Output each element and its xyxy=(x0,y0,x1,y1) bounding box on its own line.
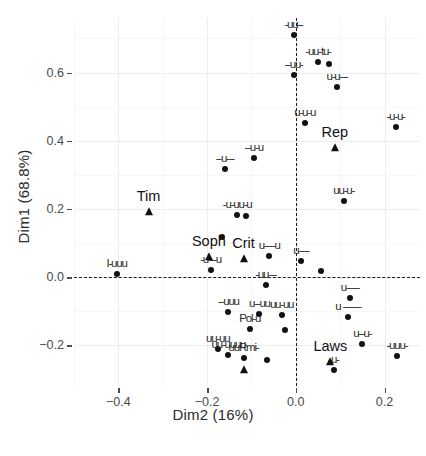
point-label: --u--- xyxy=(216,152,234,164)
point-label: u-u-u xyxy=(294,106,315,118)
point-label: --uuu xyxy=(218,295,239,307)
point-marker[interactable] xyxy=(247,326,253,332)
y-tick-mark xyxy=(67,345,72,347)
x-tick-label: −0.4 xyxy=(106,395,131,409)
point-label-named: Tim xyxy=(137,188,161,204)
y-gridline-major xyxy=(74,73,420,74)
point-marker[interactable] xyxy=(208,267,214,273)
y-tick-label: 0.4 xyxy=(47,134,64,148)
chart-root: Dim1 (68.8%) Dim2 (16%) 0.60.40.20.0−0.2… xyxy=(0,0,426,456)
y-gridline-minor xyxy=(74,175,420,176)
point-marker[interactable] xyxy=(334,84,340,90)
point-marker[interactable] xyxy=(345,314,351,320)
point-label: u--u- xyxy=(353,327,371,339)
point-label: u ------- xyxy=(335,300,361,312)
point-marker[interactable] xyxy=(359,341,365,347)
point-label: -uu--- xyxy=(255,268,276,280)
y-tick-mark xyxy=(67,73,72,75)
point-label: -u-uu-u xyxy=(223,198,252,210)
point-marker[interactable] xyxy=(394,353,400,359)
point-label: I-uuu xyxy=(106,257,126,269)
y-tick-label: 0.0 xyxy=(47,270,64,284)
y-tick-group: 0.60.40.20.0−0.2 xyxy=(0,18,74,386)
triangle-marker[interactable] xyxy=(326,357,334,365)
point-marker[interactable] xyxy=(331,367,337,373)
point-marker[interactable] xyxy=(341,198,347,204)
x-gridline-minor xyxy=(74,18,75,386)
y-gridline-minor xyxy=(74,107,420,108)
x-tick-label: 0.2 xyxy=(376,395,393,409)
point-marker[interactable] xyxy=(318,268,324,274)
y-gridline-minor xyxy=(74,38,420,39)
triangle-marker[interactable] xyxy=(240,254,248,262)
point-marker[interactable] xyxy=(114,271,120,277)
point-marker[interactable] xyxy=(225,309,231,315)
point-marker[interactable] xyxy=(263,282,269,288)
point-label: uu-uu xyxy=(270,298,293,310)
point-marker[interactable] xyxy=(264,357,270,363)
point-marker[interactable] xyxy=(243,213,249,219)
point-label: u---- xyxy=(293,244,309,256)
point-marker[interactable] xyxy=(298,258,304,264)
x-gridline-minor xyxy=(163,18,164,386)
point-marker[interactable] xyxy=(266,253,272,259)
triangle-marker[interactable] xyxy=(205,252,213,260)
x-tick-group: −0.4−0.20.00.2 xyxy=(74,386,420,416)
horizontal-reference-line xyxy=(74,277,420,278)
point-marker[interactable] xyxy=(315,59,321,65)
point-marker[interactable] xyxy=(302,120,308,126)
point-label: u----- xyxy=(341,281,359,293)
x-tick-mark xyxy=(207,388,209,393)
y-tick-mark xyxy=(67,141,72,143)
y-tick-label: 0.2 xyxy=(47,202,64,216)
point-marker[interactable] xyxy=(282,327,288,333)
y-tick-label: 0.6 xyxy=(47,66,64,80)
point-label: --u-u xyxy=(245,141,263,153)
point-marker[interactable] xyxy=(241,355,247,361)
point-label-named: Rep xyxy=(321,124,348,140)
point-label: -uu-tu- xyxy=(305,45,330,57)
point-marker[interactable] xyxy=(234,212,240,218)
point-label-named: Soph xyxy=(192,233,226,249)
point-label: -uuu- xyxy=(386,339,407,351)
x-tick-label: 0.0 xyxy=(287,395,304,409)
point-label: uuRmi- xyxy=(229,341,259,353)
point-marker[interactable] xyxy=(291,72,297,78)
triangle-marker[interactable] xyxy=(145,207,153,215)
point-marker[interactable] xyxy=(393,124,399,130)
x-tick-mark xyxy=(296,388,298,393)
triangle-marker[interactable] xyxy=(240,365,248,373)
y-tick-mark xyxy=(67,277,72,279)
point-label: Pol-u xyxy=(239,312,260,324)
point-label: --uu- xyxy=(284,58,302,70)
point-label: u----u xyxy=(259,239,280,251)
point-marker[interactable] xyxy=(279,312,285,318)
point-marker[interactable] xyxy=(251,155,257,161)
plot-panel: -uu---uu-tu---uu-u-u---u-u-u-u-u---u-u--… xyxy=(74,18,420,386)
point-label: -u-u- xyxy=(386,110,404,122)
y-tick-mark xyxy=(67,209,72,211)
triangle-marker[interactable] xyxy=(331,143,339,151)
x-tick-mark xyxy=(118,388,120,393)
point-marker[interactable] xyxy=(291,32,297,38)
point-label-named: Laws xyxy=(313,338,347,354)
point-marker[interactable] xyxy=(326,61,332,67)
point-marker[interactable] xyxy=(222,166,228,172)
x-tick-mark xyxy=(385,388,387,393)
point-label: uu-u- xyxy=(333,184,354,196)
y-tick-label: −0.2 xyxy=(39,338,64,352)
point-label: u--uu xyxy=(249,297,270,309)
point-label: u-u--- xyxy=(327,70,348,82)
point-label: -uu-- xyxy=(284,18,302,30)
point-label-named: Crit xyxy=(232,235,255,251)
x-tick-label: −0.2 xyxy=(195,395,220,409)
